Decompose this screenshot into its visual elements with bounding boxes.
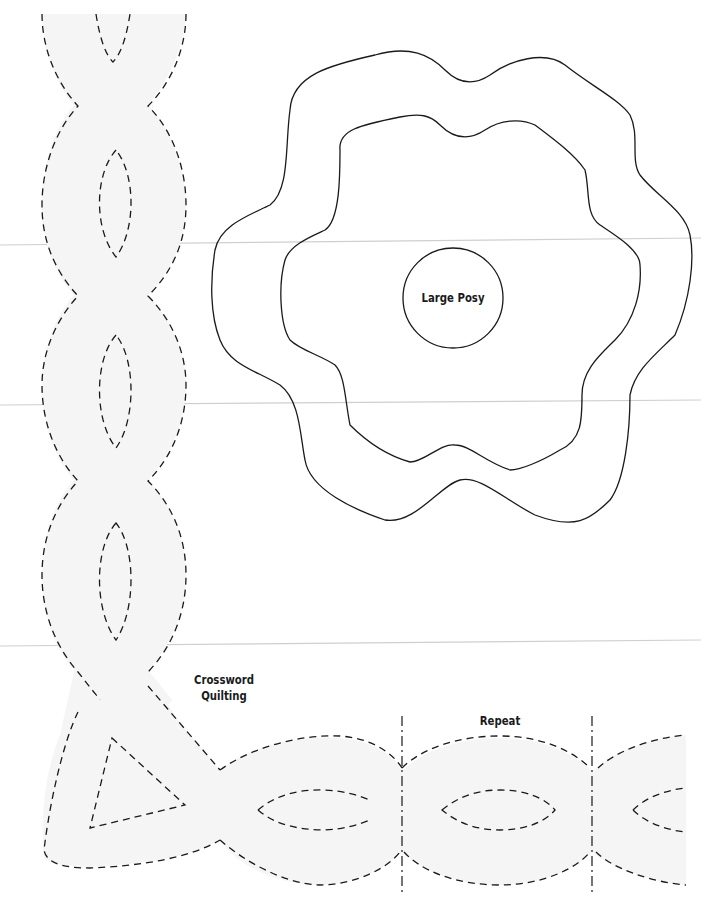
crossword-quilting-label-line1: Crossword (193, 672, 255, 687)
large-posy-outer (212, 51, 692, 522)
crossword-quilting-label-line2: Quilting (193, 688, 255, 703)
cable-border-horizontal (43, 672, 686, 885)
pattern-canvas (0, 0, 701, 900)
repeat-label: Repeat (469, 713, 531, 728)
large-posy-label: Large Posy (414, 290, 492, 305)
cable-border-vertical (42, 14, 186, 770)
large-posy (212, 51, 692, 522)
